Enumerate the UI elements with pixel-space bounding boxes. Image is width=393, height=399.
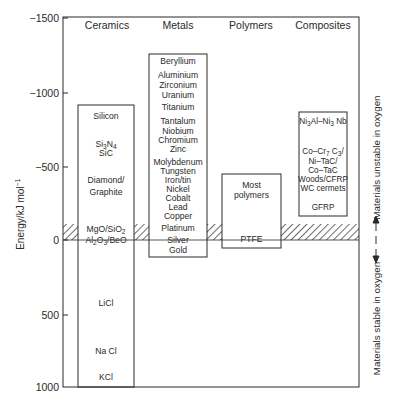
subscript: 2 <box>122 228 126 235</box>
ceramics-item: Na Cl <box>78 346 134 356</box>
y-tick-label: 500 <box>15 309 59 321</box>
category-ceramics: Ceramics <box>72 19 142 31</box>
category-polymers: Polymers <box>216 19 286 31</box>
stable-in-oxygen-label: Materials stable in oxygen <box>371 259 382 379</box>
polymers-item: Most <box>222 180 281 190</box>
composites-item: WC cermets <box>299 184 347 194</box>
polymers-item: polymers <box>222 190 281 200</box>
text: MgO/SiO <box>87 224 122 234</box>
metals-item: Aluminium <box>149 70 207 80</box>
metals-item: Platinum <box>149 223 207 233</box>
text: Co–Cr <box>302 147 326 156</box>
text: / <box>341 147 343 156</box>
ceramics-item: LiCl <box>78 298 134 308</box>
metals-item: Copper <box>149 211 207 221</box>
y-axis-title-text: Energy/kJ mol <box>15 186 26 249</box>
metals-item: Gold <box>149 245 207 255</box>
oxygen-stability-arrows <box>373 216 379 263</box>
text: Al–Ni <box>311 117 331 126</box>
ceramics-item: Silicon <box>78 111 134 121</box>
ceramics-item: KCl <box>78 372 134 382</box>
composites-item-ni3al: Ni3Al–Ni3 Nb <box>299 117 347 127</box>
composites-item-cocr: Co–Cr7 C3/ <box>299 147 347 157</box>
y-tick-label: −1000 <box>15 87 59 99</box>
ceramics-item-al2o3: Al2O3/BeO <box>78 235 134 245</box>
y-ticks <box>63 18 68 315</box>
polymers-item: PTFE <box>222 234 281 244</box>
unstable-in-oxygen-label: Materials unstable in oxygen <box>371 93 382 223</box>
category-composites: Composites <box>288 19 358 31</box>
ceramics-item-mgo: MgO/SiO2 <box>78 224 134 234</box>
y-axis-title-exponent: −1 <box>14 178 21 186</box>
y-axis-title: Energy/kJ mol−1 <box>14 164 26 264</box>
ceramics-item: Graphite <box>78 187 134 197</box>
category-metals: Metals <box>143 19 213 31</box>
text: /BeO <box>107 235 127 245</box>
text: C <box>330 147 338 156</box>
metals-item: Uranium <box>149 90 207 100</box>
text: Ni <box>299 117 307 126</box>
composites-item: GFRP <box>299 203 347 213</box>
metals-item: Titanium <box>149 102 207 112</box>
metals-item: Zinc <box>149 144 207 154</box>
text: Nb <box>334 117 347 126</box>
metals-item: Zirconium <box>149 80 207 90</box>
ceramics-item: Diamond/ <box>78 175 134 185</box>
metals-item: Silver <box>149 235 207 245</box>
ceramics-item: SiC <box>78 148 134 158</box>
y-tick-label: 1000 <box>15 381 59 393</box>
text: Al <box>85 235 93 245</box>
y-tick-label: −1500 <box>15 12 59 24</box>
metals-item: Beryllium <box>149 56 207 66</box>
metals-item: Tantalum <box>149 116 207 126</box>
